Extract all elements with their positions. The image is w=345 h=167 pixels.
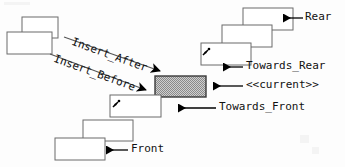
node-current xyxy=(155,76,206,97)
label-towards-rear: Towards_Rear xyxy=(246,60,325,71)
node-front xyxy=(55,138,105,160)
label-towards-front: Towards_Front xyxy=(219,101,305,112)
diagram-canvas: Rear Towards_Rear <<current>> Towards_Fr… xyxy=(0,0,345,167)
node-towards-front xyxy=(110,95,161,117)
label-front: Front xyxy=(131,143,164,154)
label-current: <<current>> xyxy=(246,79,319,90)
node-towards-rear xyxy=(201,43,251,65)
node-detached-lower xyxy=(7,32,52,54)
label-rear: Rear xyxy=(305,11,332,22)
